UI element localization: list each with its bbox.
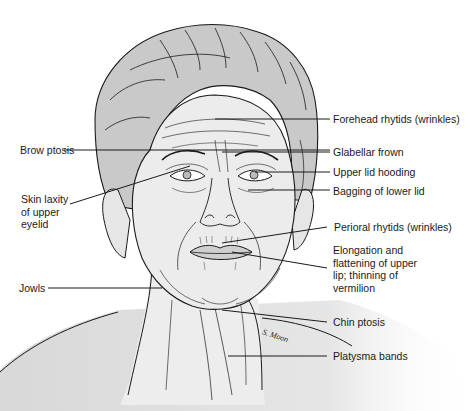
label-skin-laxity-line1: Skin laxity	[21, 193, 81, 206]
label-perioral-rhytids: Perioral rhytids (wrinkles)	[334, 221, 452, 234]
label-chin-ptosis: Chin ptosis	[333, 316, 385, 329]
label-upper-lip-line1: Elongation and	[333, 244, 453, 257]
label-skin-laxity-line2: of upper	[21, 206, 81, 219]
label-skin-laxity-line3: eyelid	[21, 218, 81, 231]
label-forehead-rhytids: Forehead rhytids (wrinkles)	[333, 113, 460, 126]
label-brow-ptosis: Brow ptosis	[20, 144, 74, 157]
label-platysma-bands: Platysma bands	[333, 350, 408, 363]
label-glabellar-frown: Glabellar frown	[333, 146, 404, 159]
label-upper-lip-line4: vermilion	[333, 282, 453, 295]
label-upper-lip-line3: lip; thinning of	[333, 269, 453, 282]
label-bagging-lower-lid: Bagging of lower lid	[333, 185, 425, 198]
label-upper-lip: Elongation and flattening of upper lip; …	[333, 244, 453, 294]
label-upper-lid-hooding: Upper lid hooding	[333, 166, 415, 179]
aging-face-diagram: S. Moon Brow ptosis Skin laxity of upper…	[0, 0, 473, 411]
label-skin-laxity: Skin laxity of upper eyelid	[21, 193, 81, 231]
label-jowls: Jowls	[19, 282, 45, 295]
label-upper-lip-line2: flattening of upper	[333, 257, 453, 270]
